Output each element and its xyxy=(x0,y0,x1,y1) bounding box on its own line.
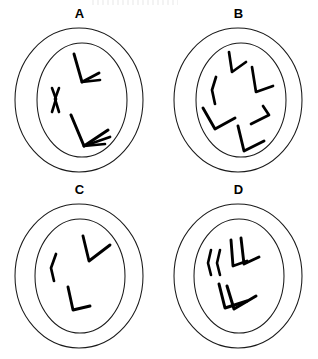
nucleus-d xyxy=(194,219,284,333)
cell-diagram-c xyxy=(0,196,159,359)
v-chromosome-lower-c xyxy=(68,287,90,310)
v-pair-upper-d xyxy=(231,238,259,266)
cell-membrane-c xyxy=(15,204,143,348)
rod-pair-d xyxy=(208,250,220,275)
v-pair-lower-d xyxy=(219,284,256,309)
panel-label-d: D xyxy=(159,182,318,197)
cell-diagram-a xyxy=(0,20,159,183)
chromosome-6-b xyxy=(238,126,264,151)
chromosome-3-b xyxy=(212,77,216,104)
cell-diagram-b xyxy=(159,20,318,183)
panel-a: A xyxy=(0,4,159,183)
rod-chromosome-c xyxy=(51,254,56,281)
chromosome-5-b xyxy=(251,106,269,124)
x-shaped-chromosome-a xyxy=(52,88,59,112)
panel-label-a: A xyxy=(0,6,159,21)
v-chromosome-lower-a xyxy=(71,115,110,146)
cell-membrane-a xyxy=(15,28,143,172)
v-chromosome-upper-a xyxy=(74,54,100,82)
cell-membrane-b xyxy=(174,28,302,172)
panel-label-c: C xyxy=(0,182,159,197)
cell-membrane-d xyxy=(174,204,302,348)
panel-b: B xyxy=(159,4,318,183)
nucleus-c xyxy=(35,219,125,333)
panel-label-b: B xyxy=(159,6,318,21)
panel-c: C xyxy=(0,180,159,359)
chromosome-2-b xyxy=(252,67,273,92)
panel-d: D xyxy=(159,180,318,359)
v-chromosome-upper-c xyxy=(83,236,110,261)
chromosome-1-b xyxy=(229,52,246,72)
figure-root: A B xyxy=(0,0,318,359)
cell-diagram-d xyxy=(159,196,318,359)
chromosome-4-b xyxy=(203,108,235,129)
